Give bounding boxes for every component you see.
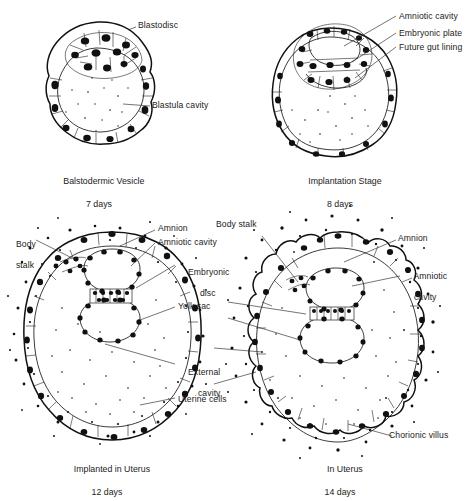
label-line-1: External [188,367,220,377]
label-body-stalk-14d: Body stalk [216,219,257,229]
label-line-2: disc [188,288,216,298]
label-line-1: Amniotic [413,271,447,281]
label-yolk-sac-12d: Yolk sac [178,301,211,311]
label-uterine-cells-12d: Uterine cells [178,394,227,404]
caption-days: 7 days [14,199,184,211]
implantation-stage-drawing [272,16,396,157]
label-future-gut-lining: Future gut lining [399,42,462,52]
label-line-2: stalk [16,260,34,270]
label-amniotic-cavity-12d: Amniotic cavity [158,237,217,247]
label-amniotic-cavity-14d: Amniotic cavity [404,261,447,313]
label-chorionic-villus: Chorionic villus [389,430,448,440]
implanted-in-uterus-drawing [7,217,207,445]
label-blastula-cavity: Blastula cavity [152,100,208,110]
label-line-2: cavity [414,292,437,302]
label-amnion-14d: Amnion [398,233,428,243]
label-line-1: Embryonic [188,267,230,277]
label-amniotic-cavity-8d: Amniotic cavity [399,11,458,21]
label-embryonic-plate: Embryonic plate [399,28,462,38]
caption-implantation-stage: Implantation Stage 8 days [255,164,425,233]
blastodermic-vesicle-drawing [46,22,155,144]
caption-title: In Uterus [327,464,363,474]
caption-implanted-in-uterus: Implanted in Uterus 12 days [22,452,192,501]
label-line-1: Body [16,239,36,249]
caption-title: Implantation Stage [308,176,381,186]
caption-days: 14 days [265,487,415,499]
label-amnion-12d: Amnion [158,223,188,233]
caption-days: 12 days [22,487,192,499]
caption-title: Implanted in Uterus [74,464,150,474]
caption-in-uterus: In Uterus 14 days [265,452,415,501]
label-blastodisc: Blastodisc [138,20,178,30]
label-body-stalk-12d: Body stalk [6,229,36,281]
caption-title: Balstodermic Vesicle [63,176,144,186]
caption-days: 8 days [255,199,425,211]
